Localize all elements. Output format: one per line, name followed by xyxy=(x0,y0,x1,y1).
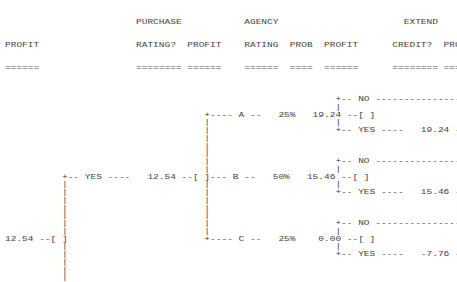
tree-body: +-- NO ---------------------------------… xyxy=(5,88,457,282)
decision-tree: PURCHASE AGENCY EXTEND RISK PROFIT RATIN… xyxy=(5,3,457,282)
header-line-2: PROFIT RATING? PROFIT RATING PROB PROFIT… xyxy=(5,42,457,50)
tree-line: | +-- GOOD -- 12% 25.00 xyxy=(5,267,457,275)
header-underline: ====== ======== ====== ====== ==== =====… xyxy=(5,65,457,73)
header-line-1: PURCHASE AGENCY EXTEND RISK xyxy=(5,19,457,27)
